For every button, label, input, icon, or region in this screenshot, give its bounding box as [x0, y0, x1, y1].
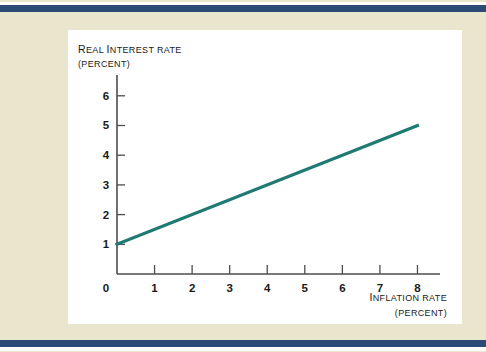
- data-series-line: [117, 125, 417, 244]
- x-tick-label-6: 6: [339, 282, 345, 294]
- y-axis-ticks: [117, 96, 125, 245]
- y-axis-tick-labels: 0123456: [103, 90, 110, 294]
- y-tick-label-3: 3: [103, 179, 109, 191]
- x-tick-label-1: 1: [151, 282, 158, 294]
- x-tick-label-4: 4: [264, 282, 271, 294]
- y-tick-label-1: 1: [103, 238, 110, 250]
- bottom-rule: [0, 340, 486, 347]
- figure-container: REAL INTEREST RATE (PERCENT) INFLATION R…: [0, 0, 486, 352]
- y-tick-label-0: 0: [103, 282, 109, 294]
- y-tick-label-4: 4: [103, 149, 110, 161]
- x-tick-label-8: 8: [414, 282, 421, 294]
- y-tick-label-2: 2: [103, 209, 109, 221]
- chart-svg: 0123456 12345678: [68, 30, 462, 324]
- x-tick-label-3: 3: [226, 282, 232, 294]
- x-tick-label-7: 7: [377, 282, 383, 294]
- y-tick-label-5: 5: [103, 119, 110, 131]
- x-tick-label-5: 5: [302, 282, 309, 294]
- x-tick-label-2: 2: [189, 282, 195, 294]
- x-axis-tick-labels: 12345678: [151, 282, 421, 294]
- y-tick-label-6: 6: [103, 90, 109, 102]
- x-axis-ticks: [155, 265, 418, 274]
- top-rule: [0, 5, 486, 12]
